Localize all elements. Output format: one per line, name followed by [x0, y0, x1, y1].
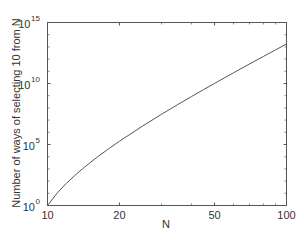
- chart: 102050100 10010510101015 N Number of way…: [0, 0, 304, 242]
- y-tick-label: 10: [23, 140, 35, 152]
- y-axis-ticks: 10010510101015: [18, 14, 286, 213]
- y-tick-exponent: 5: [36, 136, 41, 145]
- y-tick-exponent: 15: [31, 14, 40, 23]
- plot-area: [48, 23, 287, 206]
- y-tick-label: 10: [23, 201, 35, 213]
- x-axis-label: N: [162, 218, 170, 230]
- minor-ticks: [48, 23, 287, 206]
- x-tick-label: 10: [41, 209, 53, 221]
- data-line: [48, 44, 287, 206]
- y-axis-label: Number of ways of selecting 10 from N: [10, 18, 22, 208]
- x-tick-label: 20: [113, 209, 125, 221]
- x-axis-ticks: 102050100: [41, 23, 295, 221]
- y-tick-exponent: 10: [31, 75, 40, 84]
- y-tick-exponent: 0: [36, 197, 41, 206]
- x-tick-label: 50: [208, 209, 220, 221]
- x-tick-label: 100: [277, 209, 295, 221]
